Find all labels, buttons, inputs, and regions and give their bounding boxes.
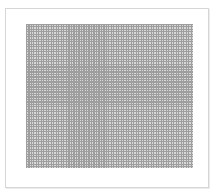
figure-caption-bottom <box>26 171 188 181</box>
figure-frame <box>5 8 209 188</box>
figure-caption-top <box>26 13 188 21</box>
mesh-grid <box>26 24 193 168</box>
